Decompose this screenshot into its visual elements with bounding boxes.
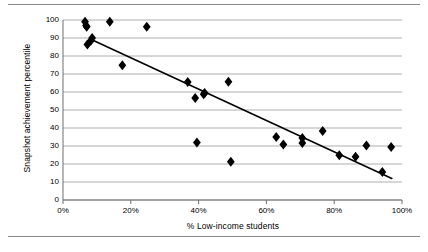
y-tick-label: 100 <box>37 15 59 24</box>
y-tick-label: 70 <box>37 69 59 78</box>
x-tick-label: 60% <box>246 206 286 215</box>
x-tick-label: 0% <box>43 206 83 215</box>
data-point <box>335 150 343 160</box>
y-tick-label: 60 <box>37 87 59 96</box>
data-point <box>363 140 371 150</box>
y-tick-label: 20 <box>37 159 59 168</box>
data-point <box>387 142 395 152</box>
x-tick-label: 80% <box>314 206 354 215</box>
data-point <box>319 126 327 136</box>
trendline <box>92 40 392 179</box>
y-tick-label: 0 <box>37 195 59 204</box>
y-tick-label: 40 <box>37 123 59 132</box>
y-tick-label: 30 <box>37 141 59 150</box>
y-tick-label: 10 <box>37 177 59 186</box>
data-point <box>227 157 235 167</box>
data-point <box>143 22 151 32</box>
data-point <box>225 77 233 87</box>
data-point <box>106 17 114 27</box>
x-tick-label: 20% <box>111 206 151 215</box>
data-point <box>191 93 199 103</box>
y-tick-label: 90 <box>37 33 59 42</box>
data-point <box>118 60 126 70</box>
data-point <box>279 140 287 150</box>
data-point <box>298 138 306 148</box>
x-tick-label: 100% <box>382 206 422 215</box>
data-point <box>272 132 280 142</box>
scatter-chart: Snapshot achievement percentile % Low-in… <box>0 0 428 252</box>
y-tick-label: 50 <box>37 105 59 114</box>
figure-container: Snapshot achievement percentile % Low-in… <box>0 0 428 252</box>
y-tick-label: 80 <box>37 51 59 60</box>
y-axis-title: Snapshot achievement percentile <box>22 20 32 196</box>
x-axis-title: % Low-income students <box>63 221 403 231</box>
x-tick-label: 40% <box>179 206 219 215</box>
